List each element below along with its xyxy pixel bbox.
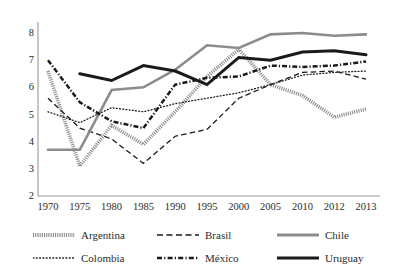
x-tick-1985: 1985 [126,202,160,213]
y-tick-5: 5 [18,110,34,121]
series-line-argentina [48,49,366,166]
legend-item-uruguay[interactable]: Uruguay [277,252,383,264]
x-tick-2013: 2013 [349,202,383,213]
y-tick-8: 8 [18,28,34,39]
legend-label-mexico: México [205,252,239,264]
legend-label-colombia: Colombia [81,252,124,264]
y-tick-4: 4 [18,137,34,148]
x-tick-2005: 2005 [254,202,288,213]
y-tick-3: 3 [18,164,34,175]
x-tick-2000: 2000 [222,202,256,213]
legend-label-brasil: Brasil [205,229,231,241]
y-tick-6: 6 [18,82,34,93]
x-tick-2012: 2012 [317,202,351,213]
legend-swatch-argentina [33,229,75,241]
legend-swatch-colombia [33,252,75,264]
legend-swatch-brasil [157,229,199,241]
legend-item-brasil[interactable]: Brasil [157,229,277,241]
legend-swatch-uruguay [277,252,319,264]
series-line-uruguay [80,51,366,85]
legend-swatch-mexico [157,252,199,264]
series-group [48,33,366,166]
x-tick-2010: 2010 [285,202,319,213]
line-chart-figure: 8765432 19701975198019851990199520002005… [0,0,393,274]
y-tick-2: 2 [18,191,34,202]
legend-item-mexico[interactable]: México [157,252,277,264]
legend-item-argentina[interactable]: Argentina [33,229,157,241]
legend-label-chile: Chile [325,229,349,241]
chart-legend: Argentina Brasil Chile Colombia México [33,223,383,269]
x-tick-1990: 1990 [158,202,192,213]
x-tick-1980: 1980 [95,202,129,213]
x-tick-1995: 1995 [190,202,224,213]
legend-label-uruguay: Uruguay [325,252,364,264]
legend-swatch-chile [277,229,319,241]
y-tick-7: 7 [18,55,34,66]
legend-item-chile[interactable]: Chile [277,229,383,241]
x-tick-1975: 1975 [63,202,97,213]
legend-label-argentina: Argentina [81,229,125,241]
legend-item-colombia[interactable]: Colombia [33,252,157,264]
x-tick-1970: 1970 [31,202,65,213]
